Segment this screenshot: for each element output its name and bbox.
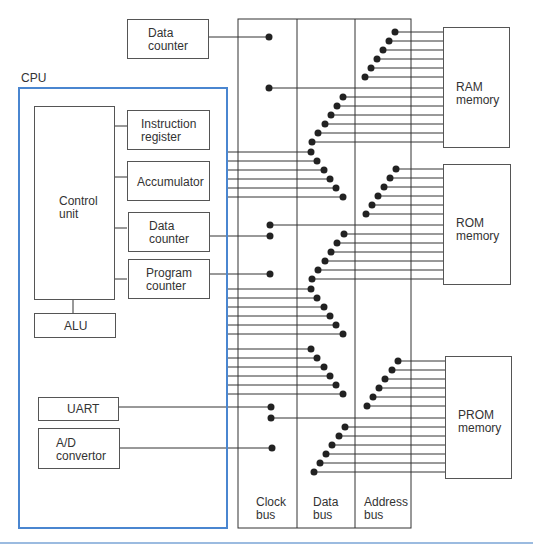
program-counter-block: Program counter: [128, 259, 210, 299]
ad-convertor-block: A/D convertor: [38, 428, 120, 469]
instruction-register-block: Instruction register: [127, 110, 210, 150]
data-counter-block: Data counter: [128, 212, 210, 252]
cpu-label: CPU: [21, 72, 46, 85]
accumulator-block: Accumulator: [127, 161, 210, 201]
rom-memory-block: ROM memory: [443, 164, 511, 285]
clock-bus-label-line2: bus: [256, 509, 275, 522]
uart-block: UART: [38, 397, 119, 421]
external-data-counter-block: Data counter: [127, 19, 209, 59]
address-bus-label-line2: bus: [364, 509, 383, 522]
data-bus-label-line2: bus: [313, 509, 332, 522]
alu-block: ALU: [34, 313, 116, 338]
ram-memory-block: RAM memory: [443, 27, 510, 148]
prom-memory-block: PROM memory: [445, 356, 512, 479]
control-unit-block: Control unit: [34, 106, 115, 300]
